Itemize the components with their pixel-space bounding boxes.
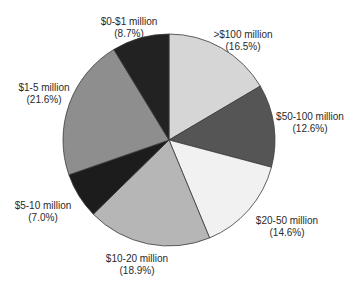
- slice-label-percent: (12.6%): [276, 123, 344, 135]
- slice-label-name: $20-50 million: [256, 215, 318, 227]
- slice-label: $10-20 million(18.9%): [106, 253, 168, 277]
- slice-label-name: $5-10 million: [15, 200, 72, 212]
- slice-label-percent: (21.6%): [18, 94, 69, 106]
- slice-label: $50-100 million(12.6%): [276, 111, 344, 135]
- slice-label-percent: (18.9%): [106, 265, 168, 277]
- slice-label: $0-$1 million(8.7%): [101, 16, 158, 40]
- slice-label: $5-10 million(7.0%): [15, 200, 72, 224]
- slice-label-percent: (8.7%): [101, 28, 158, 40]
- pie-slices: [63, 34, 275, 246]
- slice-label-name: >$100 million: [213, 29, 272, 41]
- slice-label: $20-50 million(14.6%): [256, 215, 318, 239]
- slice-label-name: $10-20 million: [106, 253, 168, 265]
- slice-label-percent: (16.5%): [213, 41, 272, 53]
- slice-label-percent: (7.0%): [15, 212, 72, 224]
- slice-label-percent: (14.6%): [256, 227, 318, 239]
- slice-label-name: $1-5 million: [18, 82, 69, 94]
- slice-label-name: $0-$1 million: [101, 16, 158, 28]
- slice-label: $1-5 million(21.6%): [18, 82, 69, 106]
- slice-label-name: $50-100 million: [276, 111, 344, 123]
- slice-label: >$100 million(16.5%): [213, 29, 272, 53]
